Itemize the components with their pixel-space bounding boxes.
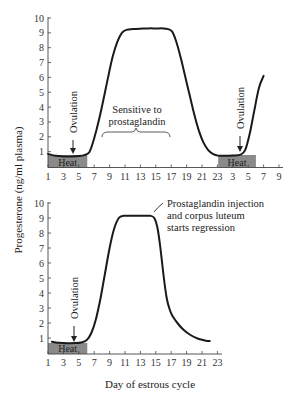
top-ovulation-annotation-1: Ovulation xyxy=(68,90,79,154)
x-tick-label: 3 xyxy=(230,171,235,182)
y-tick-label: 1 xyxy=(39,333,44,344)
top-ovulation-annotation-2: Ovulation xyxy=(235,86,246,152)
x-tick-label: 17 xyxy=(166,171,176,182)
ovulation-label: Ovulation xyxy=(68,90,79,133)
x-tick-label: 9 xyxy=(107,171,112,182)
y-tick-label: 9 xyxy=(39,213,44,224)
x-tick-label: 15 xyxy=(151,357,161,368)
x-tick-label: 5 xyxy=(76,171,81,182)
y-axis-title: Progesterone (ng/ml plasma) xyxy=(12,126,25,253)
y-tick-label: 9 xyxy=(39,27,44,38)
x-tick-label: 21 xyxy=(197,171,207,182)
y-tick-label: 2 xyxy=(39,131,44,142)
heat-label: Heat xyxy=(58,343,77,354)
x-tick-label: 19 xyxy=(182,171,192,182)
injection-pointer xyxy=(154,203,163,212)
ovulation-arrow-head xyxy=(71,336,77,342)
x-tick-label: 1 xyxy=(46,357,51,368)
injection-label-line2: and corpus luteum xyxy=(167,210,245,221)
injection-label-line1: Prostaglandin injection xyxy=(167,198,265,209)
x-tick-label: 23 xyxy=(212,171,222,182)
heat-label: Heat xyxy=(58,157,77,168)
y-tick-label: 1 xyxy=(39,146,44,157)
x-tick-label: 17 xyxy=(166,357,176,368)
y-tick-label: 7 xyxy=(39,57,44,68)
x-axis-title: Day of estrous cycle xyxy=(105,378,195,390)
y-tick-label: 8 xyxy=(39,42,44,53)
bottom-ovulation-annotation: Ovulation xyxy=(69,276,80,342)
ovulation-arrow-head xyxy=(237,146,243,152)
sensitive-brace xyxy=(102,128,170,137)
x-tick-label: 15 xyxy=(151,171,161,182)
x-tick-label: 11 xyxy=(120,357,130,368)
y-tick-label: 10 xyxy=(34,13,44,24)
y-tick-label: 6 xyxy=(39,258,44,269)
x-tick-label: 3 xyxy=(61,357,66,368)
y-tick-label: 7 xyxy=(39,243,44,254)
y-tick-label: 5 xyxy=(39,273,44,284)
y-tick-label: 6 xyxy=(39,72,44,83)
injection-label-line3: starts regression xyxy=(167,222,236,233)
ovulation-label: Ovulation xyxy=(235,86,246,129)
progesterone-chart: Progesterone (ng/ml plasma) Day of estro… xyxy=(0,0,293,395)
y-tick-label: 3 xyxy=(39,116,44,127)
y-tick-label: 10 xyxy=(34,198,44,209)
x-tick-label: 3 xyxy=(61,171,66,182)
x-tick-label: 11 xyxy=(120,171,130,182)
y-tick-label: 3 xyxy=(39,303,44,314)
x-tick-label: 13 xyxy=(135,357,145,368)
x-tick-label: 5 xyxy=(246,171,251,182)
y-tick-label: 2 xyxy=(39,318,44,329)
heat-label: Heat xyxy=(228,157,247,168)
sensitive-annotation: Sensitive to prostaglandin xyxy=(102,104,170,137)
injection-annotation: Prostaglandin injection and corpus luteu… xyxy=(154,198,265,233)
x-tick-label: 1 xyxy=(46,171,51,182)
y-tick-label: 8 xyxy=(39,228,44,239)
x-tick-label: 7 xyxy=(92,357,97,368)
x-tick-label: 7 xyxy=(92,171,97,182)
progesterone-curve xyxy=(48,28,264,156)
x-tick-label: 7 xyxy=(261,171,266,182)
x-tick-label: 13 xyxy=(135,171,145,182)
sensitive-label-line1: Sensitive to xyxy=(112,104,161,115)
x-tick-label: 21 xyxy=(197,357,207,368)
sensitive-label-line2: prostaglandin xyxy=(108,116,166,127)
x-tick-label: 23 xyxy=(212,357,222,368)
y-tick-label: 4 xyxy=(39,288,44,299)
y-tick-label: 4 xyxy=(39,102,44,113)
x-tick-label: 5 xyxy=(76,357,81,368)
x-tick-label: 9 xyxy=(277,171,282,182)
x-tick-label: 9 xyxy=(107,357,112,368)
ovulation-arrow-head xyxy=(70,148,76,154)
y-tick-label: 5 xyxy=(39,87,44,98)
x-tick-label: 19 xyxy=(182,357,192,368)
ovulation-label: Ovulation xyxy=(69,276,80,319)
